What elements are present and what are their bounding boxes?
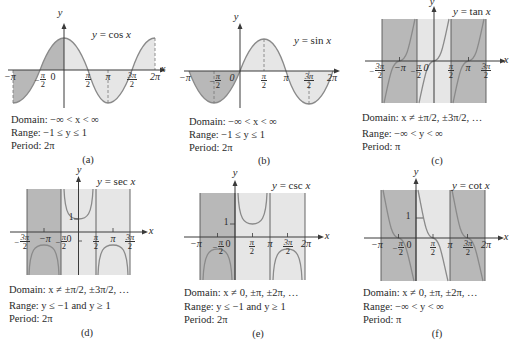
tick-two-pi: 2π <box>140 71 170 82</box>
x-axis-label: x <box>145 225 157 236</box>
graph-title: y = sin x <box>294 34 331 46</box>
caption-domain: Domain: x ≠ ±π/2, ±3π/2, … <box>362 111 482 124</box>
caption-period: Period: 2π <box>184 313 228 326</box>
cos-graph <box>0 0 170 120</box>
panel-csc: y x 1 y = csc x −π −π2 0 π2 π 3π2 2π Dom… <box>170 170 340 348</box>
caption-range: Range: −∞ < y < ∞ <box>363 300 444 313</box>
y-axis-label: y <box>226 11 246 22</box>
tick-neg-pi: −π <box>0 71 25 82</box>
tick-two-pi: 2π <box>291 238 321 249</box>
tick-zero: 0 <box>419 62 433 73</box>
y-tick-one: 1 <box>404 211 412 221</box>
y-axis-label: y <box>69 164 89 175</box>
panel-letter: (d) <box>72 327 102 338</box>
caption-range: Range: y ≤ −1 and y ≥ 1 <box>184 300 286 313</box>
sin-graph <box>170 0 340 120</box>
caption-domain: Domain: x ≠ 0, ±π, ±2π, … <box>363 286 478 299</box>
caption-domain: Domain: −∞ < x < ∞ <box>11 113 99 126</box>
tick-zero: 0 <box>225 72 239 83</box>
panel-cot: y x 1 y = cot x −π −π2 0 π2 π 3π2 2π Dom… <box>340 170 511 348</box>
x-axis-label: x <box>500 54 511 65</box>
tick-zero: 0 <box>46 71 60 82</box>
y-tick-one: 1 <box>67 212 75 222</box>
panel-letter: (b) <box>249 155 279 166</box>
y-axis-label: y <box>406 166 426 177</box>
csc-graph <box>170 170 340 290</box>
graph-title: y = sec x <box>97 175 135 187</box>
caption-period: Period: 2π <box>11 139 55 152</box>
panel-sec: y x 1 y = sec x −3π2 −π −π2 0 π2 π 3π2 D… <box>0 170 170 348</box>
caption-range: Range: −1 ≤ y ≤ 1 <box>189 128 265 141</box>
caption-period: Period: 2π <box>189 141 233 154</box>
y-axis-label: y <box>50 7 70 18</box>
caption-range: Range: −1 ≤ y ≤ 1 <box>11 126 87 139</box>
x-axis-label: x <box>321 230 333 241</box>
panel-letter: (e) <box>243 328 273 339</box>
caption-domain: Domain: x ≠ ±π/2, ±3π/2, … <box>9 283 129 296</box>
graph-title: y = csc x <box>272 179 310 191</box>
x-axis-label: x <box>500 231 511 242</box>
tick-zero: 0 <box>62 233 76 244</box>
caption-period: Period: 2π <box>9 312 53 325</box>
graph-title: y = tan x <box>453 5 491 17</box>
tick-zero: 0 <box>221 238 235 249</box>
caption-range: Range: −∞ < y < ∞ <box>362 127 443 140</box>
y-axis-label: y <box>225 167 245 178</box>
tick-two-pi: 2π <box>471 239 501 250</box>
tick-three-half-pi: 3π2 <box>471 62 501 79</box>
tick-three-half-pi: 3π2 <box>115 233 145 250</box>
panel-cos: y x y = cos x −π −π2 0 π2 π 3π2 2π Domai… <box>0 0 170 170</box>
caption-period: Period: π <box>363 313 401 326</box>
caption-domain: Domain: x ≠ 0, ±π, ±2π, … <box>184 286 299 299</box>
caption-range: Range: y ≤ −1 and y ≥ 1 <box>9 299 111 312</box>
tan-graph <box>340 0 511 120</box>
panel-tan: y x y = tan x −3π2 −π −π2 0 π2 π 3π2 Dom… <box>340 0 511 170</box>
tick-zero: 0 <box>402 239 416 250</box>
caption-period: Period: π <box>362 140 400 153</box>
tick-neg-pi: −π <box>170 72 200 83</box>
y-axis-label: y <box>422 0 442 7</box>
graph-title: y = cos x <box>92 28 131 40</box>
panel-sin: y y = sin x −π −π2 0 π2 π 3π2 2π Domain:… <box>170 0 340 170</box>
caption-domain: Domain: −∞ < x < ∞ <box>189 115 277 128</box>
graph-title: y = cot x <box>452 179 490 191</box>
panel-letter: (c) <box>422 155 452 166</box>
y-tick-one: 1 <box>222 217 230 227</box>
panel-letter: (f) <box>422 328 452 339</box>
